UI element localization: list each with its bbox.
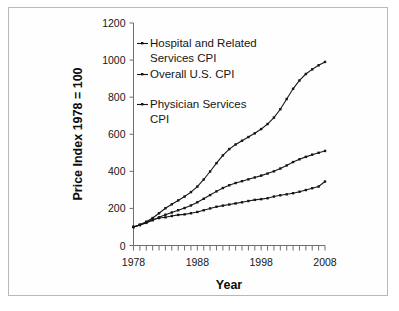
data-point-marker <box>298 79 300 81</box>
data-point-marker <box>254 132 256 134</box>
data-point-marker <box>177 199 179 201</box>
chart-svg: 020040060080010001200 1978198819982008 P… <box>0 0 399 311</box>
data-point-marker <box>196 185 198 187</box>
data-point-marker <box>247 136 249 138</box>
data-point-marker <box>196 211 198 213</box>
data-point-marker <box>158 212 160 214</box>
data-point-marker <box>203 209 205 211</box>
data-point-marker <box>286 193 288 195</box>
data-point-marker <box>279 194 281 196</box>
data-point-marker <box>151 219 153 221</box>
y-tick-label: 200 <box>108 202 126 214</box>
data-point-marker <box>209 194 211 196</box>
data-point-marker <box>215 206 217 208</box>
data-point-marker <box>209 170 211 172</box>
data-series-layer <box>132 61 326 228</box>
data-point-marker <box>145 222 147 224</box>
y-tick-label: 0 <box>120 240 126 252</box>
legend-label-hospital-line1: Hospital and Related <box>150 37 257 49</box>
data-point-marker <box>234 202 236 204</box>
data-point-marker <box>286 98 288 100</box>
data-point-marker <box>139 224 141 226</box>
x-tick-label: 1978 <box>122 256 146 268</box>
y-tick-label: 800 <box>108 91 126 103</box>
y-tick-label: 400 <box>108 165 126 177</box>
data-point-marker <box>164 216 166 218</box>
data-point-marker <box>215 190 217 192</box>
x-axis-tick-labels: 1978198819982008 <box>122 256 337 268</box>
data-point-marker <box>311 153 313 155</box>
data-point-marker <box>254 199 256 201</box>
data-point-marker <box>177 214 179 216</box>
data-point-marker <box>247 200 249 202</box>
data-point-marker <box>273 170 275 172</box>
data-point-marker <box>279 167 281 169</box>
data-point-marker <box>292 192 294 194</box>
legend-label-physician-line2: CPI <box>150 113 169 125</box>
data-point-marker <box>132 226 134 228</box>
data-point-marker <box>317 64 319 66</box>
series-2 <box>132 150 326 228</box>
series-line <box>134 151 326 227</box>
data-point-marker <box>177 209 179 211</box>
data-point-marker <box>305 189 307 191</box>
data-point-marker <box>234 143 236 145</box>
data-point-marker <box>171 215 173 217</box>
data-point-marker <box>171 203 173 205</box>
data-point-marker <box>209 207 211 209</box>
data-point-marker <box>311 187 313 189</box>
data-point-marker <box>260 198 262 200</box>
data-point-marker <box>305 73 307 75</box>
data-point-marker <box>228 203 230 205</box>
legend-item-overall: Overall U.S. CPI <box>137 68 234 80</box>
legend-marker-dot-icon <box>141 73 143 75</box>
data-point-marker <box>190 204 192 206</box>
data-point-marker <box>298 158 300 160</box>
data-point-marker <box>273 195 275 197</box>
data-point-marker <box>241 140 243 142</box>
y-tick-label: 1200 <box>102 17 126 29</box>
data-point-marker <box>260 174 262 176</box>
data-point-marker <box>164 207 166 209</box>
legend-item-hospital: Hospital and Related Services CPI <box>137 37 257 64</box>
x-tick-label: 1998 <box>249 256 273 268</box>
x-axis-title: Year <box>216 278 243 292</box>
legend-marker-dot-icon <box>141 42 143 44</box>
data-point-marker <box>203 198 205 200</box>
y-tick-label: 1000 <box>102 54 126 66</box>
data-point-marker <box>222 187 224 189</box>
x-axis-minor-ticks <box>134 246 326 251</box>
data-point-marker <box>234 182 236 184</box>
data-point-marker <box>183 213 185 215</box>
data-point-marker <box>317 152 319 154</box>
data-point-marker <box>222 154 224 156</box>
data-point-marker <box>286 164 288 166</box>
data-point-marker <box>254 176 256 178</box>
legend-item-physician: Physician Services CPI <box>137 98 247 125</box>
data-point-marker <box>228 184 230 186</box>
chart-legend: Hospital and Related Services CPI Overal… <box>137 37 257 125</box>
series-0 <box>132 61 326 228</box>
data-point-marker <box>292 88 294 90</box>
y-tick-label: 600 <box>108 128 126 140</box>
data-point-marker <box>171 211 173 213</box>
data-point-marker <box>273 116 275 118</box>
data-point-marker <box>311 68 313 70</box>
data-point-marker <box>164 214 166 216</box>
data-point-marker <box>190 212 192 214</box>
data-point-marker <box>183 195 185 197</box>
data-point-marker <box>266 197 268 199</box>
data-point-marker <box>317 185 319 187</box>
x-tick-label: 2008 <box>313 256 337 268</box>
y-axis-tick-labels: 020040060080010001200 <box>102 17 126 252</box>
legend-label-physician-line1: Physician Services <box>150 98 247 110</box>
data-point-marker <box>190 191 192 193</box>
legend-label-overall: Overall U.S. CPI <box>150 68 234 80</box>
chart-figure: 020040060080010001200 1978198819982008 P… <box>0 0 399 311</box>
data-point-marker <box>241 180 243 182</box>
data-point-marker <box>247 178 249 180</box>
data-point-marker <box>266 123 268 125</box>
legend-label-hospital-line2: Services CPI <box>150 52 216 64</box>
series-line <box>134 62 326 227</box>
data-point-marker <box>183 207 185 209</box>
